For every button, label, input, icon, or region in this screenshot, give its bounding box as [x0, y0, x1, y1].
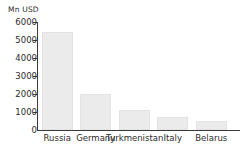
- bar-germany: [80, 94, 111, 130]
- y-tick-label: 6000: [6, 18, 37, 27]
- y-tick-label: 1000: [6, 108, 37, 117]
- bar-russia: [42, 32, 73, 130]
- y-axis-line: [37, 22, 38, 131]
- y-tick-label: 2000: [6, 90, 37, 99]
- bar-chart: Mn USD 6000 5000 4000 3000 2000 1000: [0, 0, 242, 158]
- bar-turkmenistan: [119, 110, 150, 130]
- x-axis-line: [37, 130, 240, 131]
- y-tick-label: 4000: [6, 54, 37, 63]
- bar-italy: [157, 117, 188, 131]
- x-tick-label-belarus: Belarus: [183, 134, 240, 143]
- y-tick-label: 5000: [6, 36, 37, 45]
- y-tick-label: 3000: [6, 72, 37, 81]
- plot-area: 6000 5000 4000 3000 2000 1000 0: [0, 0, 242, 158]
- bar-belarus: [196, 121, 227, 130]
